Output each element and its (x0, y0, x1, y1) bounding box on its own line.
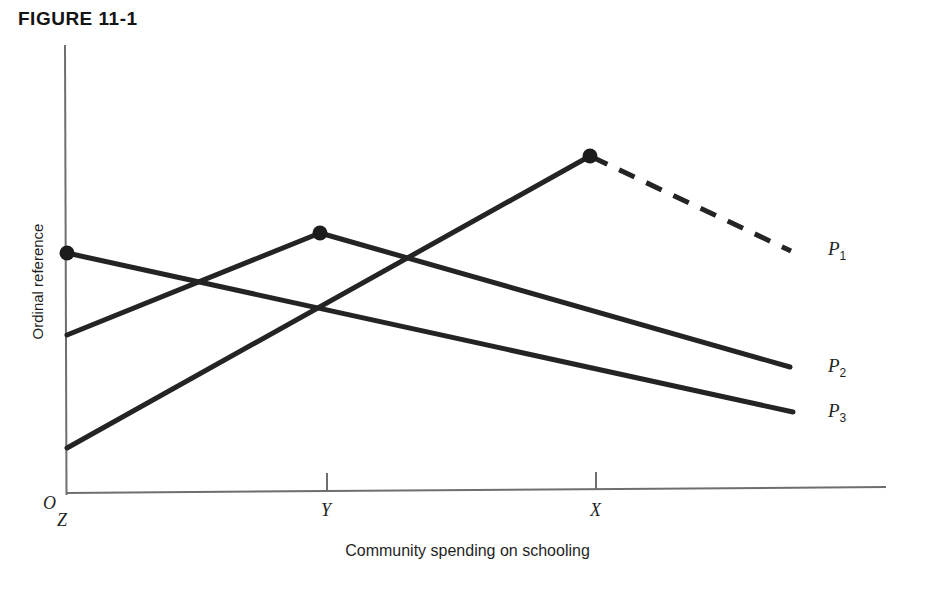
y-axis-title: Ordinal reference (29, 202, 46, 362)
curve-label-p1: P1 (828, 238, 846, 263)
axis-origin-label: O (43, 493, 56, 514)
y-axis-line (65, 45, 67, 495)
marker-p1-peak-x (583, 149, 598, 164)
curve-p2 (67, 233, 790, 367)
curve-label-p2-text: P (828, 355, 840, 376)
curve-label-p1-text: P (828, 238, 840, 259)
curve-label-p2: P2 (828, 355, 846, 380)
x-tick-label-z: Z (57, 510, 67, 531)
curve-label-p1-subscript: 1 (840, 249, 847, 263)
marker-p2-peak-y (313, 226, 328, 241)
x-axis-title: Community spending on schooling (0, 542, 935, 560)
curve-label-p3-text: P (828, 400, 840, 421)
curve-label-p3-subscript: 3 (840, 411, 847, 425)
x-axis-line (66, 487, 886, 493)
x-tick-label-x: X (590, 500, 601, 521)
curve-p1-dashed (592, 157, 791, 251)
x-tick-label-y: Y (321, 500, 331, 521)
curve-label-p3: P3 (828, 400, 846, 425)
chart-plot-area (0, 0, 935, 595)
marker-p3-peak-z (60, 246, 75, 261)
curve-label-p2-subscript: 2 (840, 366, 847, 380)
figure-container: FIGURE 11-1 Ordinal reference Community … (0, 0, 935, 595)
